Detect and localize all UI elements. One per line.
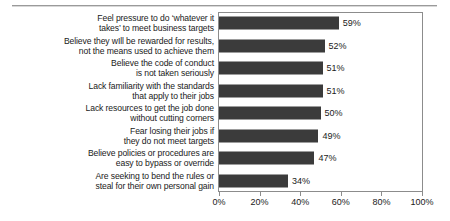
category-label: Feel pressure to do ‘whatever it takes’ …	[14, 13, 214, 33]
category-label: Lack resources to get the job done witho…	[14, 103, 214, 123]
bar	[219, 39, 325, 52]
bar	[219, 129, 318, 142]
x-tick-label: 40%	[291, 197, 309, 207]
bar	[219, 152, 314, 165]
bar-row: Believe they wIll be rewarded for result…	[0, 35, 450, 58]
x-tick-mark	[219, 192, 220, 196]
category-label: Lack familiarity with the standards that…	[14, 81, 214, 101]
bar-value-label: 47%	[314, 153, 336, 163]
x-tick-mark	[300, 192, 301, 196]
bar-track: 50%	[219, 102, 422, 125]
category-label: Believe the code of conduct is not taken…	[14, 58, 214, 78]
x-tick-label: 100%	[410, 197, 433, 207]
bar-row: Fear losing their jobs if they do not me…	[0, 125, 450, 148]
x-tick-label: 60%	[332, 197, 350, 207]
bar-track: 51%	[219, 57, 422, 80]
bar-row: Lack familiarity with the standards that…	[0, 80, 450, 103]
bar-track: 59%	[219, 12, 422, 35]
bar-value-label: 59%	[339, 18, 361, 28]
x-axis: 0%20%40%60%80%100%	[218, 192, 423, 218]
bar-row: Believe policies or procedures are easy …	[0, 147, 450, 170]
x-tick-label: 0%	[212, 197, 225, 207]
bar-row: Are seeking to bend the rules or steal f…	[0, 170, 450, 193]
bar-value-label: 51%	[323, 63, 345, 73]
category-label: Are seeking to bend the rules or steal f…	[14, 171, 214, 191]
bar-value-label: 52%	[325, 41, 347, 51]
x-tick-mark	[260, 192, 261, 196]
bar	[219, 17, 339, 30]
bar-track: 47%	[219, 147, 422, 170]
bar	[219, 84, 323, 97]
bar-row: Feel pressure to do ‘whatever it takes’ …	[0, 12, 450, 35]
bar	[219, 62, 323, 75]
horizontal-bar-chart: Feel pressure to do ‘whatever it takes’ …	[0, 0, 450, 221]
bar-value-label: 49%	[318, 131, 340, 141]
bar-track: 52%	[219, 35, 422, 58]
category-label: Fear losing their jobs if they do not me…	[14, 126, 214, 146]
bar-row: Believe the code of conduct is not taken…	[0, 57, 450, 80]
x-tick-mark	[381, 192, 382, 196]
bar-track: 49%	[219, 125, 422, 148]
bar-track: 34%	[219, 170, 422, 193]
category-label: Believe they wIll be rewarded for result…	[14, 36, 214, 56]
category-label: Believe policies or procedures are easy …	[14, 148, 214, 168]
bar-value-label: 51%	[323, 86, 345, 96]
bar	[219, 174, 288, 187]
bar-track: 51%	[219, 80, 422, 103]
bar-row: Lack resources to get the job done witho…	[0, 102, 450, 125]
bar	[219, 107, 321, 120]
x-tick-label: 20%	[251, 197, 269, 207]
bar-value-label: 50%	[321, 108, 343, 118]
x-tick-mark	[341, 192, 342, 196]
x-tick-mark	[422, 192, 423, 196]
x-tick-label: 80%	[372, 197, 390, 207]
bar-value-label: 34%	[288, 176, 310, 186]
